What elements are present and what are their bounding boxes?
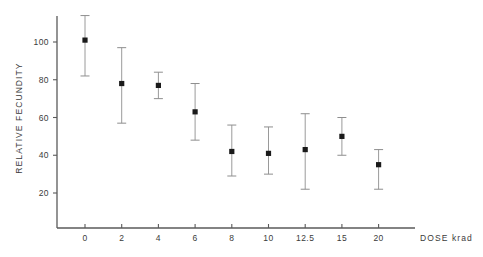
data-point-marker bbox=[376, 162, 381, 167]
x-tick-label: 15 bbox=[337, 233, 347, 243]
scatter-plot-with-error-bars: 20406080100024681012.51520DOSE kradRELAT… bbox=[0, 0, 483, 257]
y-axis-title: RELATIVE FECUNDITY bbox=[14, 62, 24, 173]
data-point-marker bbox=[303, 147, 308, 152]
data-point-marker bbox=[119, 81, 124, 86]
x-tick-label: 2 bbox=[119, 233, 124, 243]
data-point-marker bbox=[193, 109, 198, 114]
data-point-marker bbox=[82, 38, 87, 43]
x-tick-label: 12.5 bbox=[296, 233, 314, 243]
x-tick-label: 4 bbox=[156, 233, 161, 243]
x-tick-label: 6 bbox=[193, 233, 198, 243]
y-tick-label: 60 bbox=[39, 113, 49, 123]
y-tick-label: 20 bbox=[39, 188, 49, 198]
x-tick-label: 20 bbox=[373, 233, 383, 243]
x-tick-label: 8 bbox=[229, 233, 234, 243]
data-point-marker bbox=[229, 149, 234, 154]
x-tick-label: 10 bbox=[263, 233, 273, 243]
y-tick-label: 40 bbox=[39, 150, 49, 160]
figure-container: 20406080100024681012.51520DOSE kradRELAT… bbox=[0, 0, 483, 257]
y-tick-label: 80 bbox=[39, 75, 49, 85]
y-tick-label: 100 bbox=[34, 37, 49, 47]
data-point-marker bbox=[266, 151, 271, 156]
data-point-marker bbox=[339, 134, 344, 139]
x-tick-label: 0 bbox=[82, 233, 87, 243]
data-point-marker bbox=[156, 83, 161, 88]
x-axis-title: DOSE krad bbox=[420, 233, 473, 243]
